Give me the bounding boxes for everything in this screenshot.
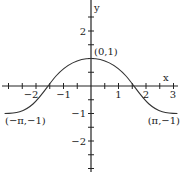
x-tick-label: 2 bbox=[143, 89, 149, 100]
left-point-annotation: (−π,−1) bbox=[5, 115, 46, 126]
x-tick-label: 3 bbox=[170, 89, 176, 100]
x-axis-label: x bbox=[163, 72, 169, 83]
x-tick-label: −2 bbox=[24, 89, 39, 100]
y-axis-label: y bbox=[93, 2, 100, 13]
x-tick-label: 1 bbox=[115, 89, 121, 100]
peak-annotation: (0,1) bbox=[94, 46, 118, 57]
y-tick-label: −1 bbox=[71, 108, 86, 119]
right-point-annotation: (π,−1) bbox=[148, 115, 180, 126]
cosine-graph: x y −2 −1 1 2 3 2 −1 −2 (0,1) (−π,−1) (π… bbox=[0, 0, 182, 178]
y-tick-label: −2 bbox=[71, 136, 86, 147]
y-tick-label: 2 bbox=[80, 26, 86, 37]
x-tick-label: −1 bbox=[56, 89, 71, 100]
